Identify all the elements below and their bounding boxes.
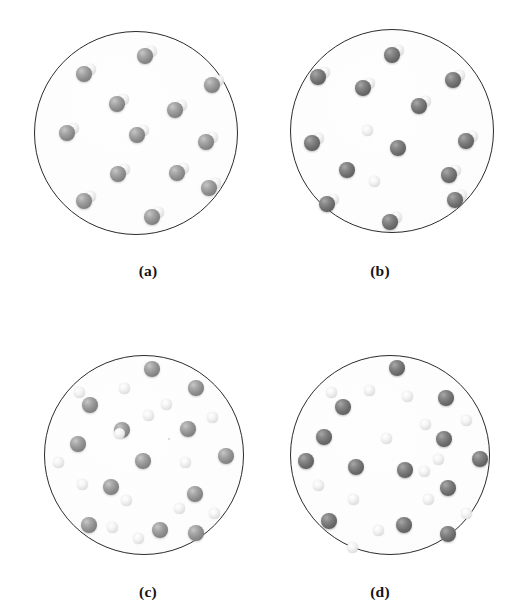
free-heavy-atom-c-3 [82,397,98,413]
panel-label-d: (d) [350,583,410,601]
panel-label-b: (b) [350,262,410,280]
heavy-atom [201,180,217,196]
heavy-atom [110,166,126,182]
free-heavy-atom-d-11 [321,513,337,529]
heavy-atom [167,102,183,118]
free-heavy-atom-d-4 [316,429,332,445]
heavy-atom [445,72,461,88]
free-heavy-atom-c-7 [218,448,234,464]
heavy-atom [169,165,185,181]
heavy-atom [198,134,214,150]
free-light-atom-d-13 [347,542,358,553]
panel-label-a: (a) [118,262,178,280]
vessel-circle-d [290,355,490,555]
free-heavy-atom-d-10 [440,480,456,496]
heavy-atom [204,77,220,93]
free-light-atom-c-12 [133,533,144,544]
free-light-atom-d-7 [433,454,444,465]
free-heavy-atom-d-7 [348,459,364,475]
free-light-atom-d-8 [313,480,324,491]
free-light-atom-b-1 [362,125,373,136]
free-heavy-atom-d-9 [472,451,488,467]
free-heavy-atom-d-8 [397,462,413,478]
free-heavy-atom-d-5 [436,431,452,447]
free-heavy-atom-c-8 [135,453,151,469]
free-heavy-atom-c-5 [180,421,196,437]
dust-speck [168,438,170,440]
free-light-atom-d-9 [348,494,359,505]
free-light-atom-c-2 [119,383,130,394]
free-heavy-atom-b-1 [390,140,406,156]
free-light-atom-c-8 [121,495,132,506]
free-light-atom-c-13 [53,457,64,468]
free-light-atom-d-10 [423,494,434,505]
heavy-atom [76,193,92,209]
heavy-atom [355,80,371,96]
heavy-atom [441,167,457,183]
free-heavy-atom-d-1 [389,360,405,376]
heavy-atom [447,192,463,208]
free-light-atom-c-4 [207,412,218,423]
free-heavy-atom-b-2 [339,162,355,178]
heavy-atom [310,69,326,85]
free-light-atom-d-4 [420,419,431,430]
free-light-atom-d-2 [364,385,375,396]
heavy-atom [144,209,160,225]
free-heavy-atom-c-1 [144,361,160,377]
free-light-atom-d-6 [381,433,392,444]
free-heavy-atom-c-2 [188,380,204,396]
free-light-atom-c-3 [143,410,154,421]
free-heavy-atom-d-6 [298,453,314,469]
heavy-atom [382,214,398,230]
heavy-atom [411,98,427,114]
free-light-atom-d-11 [461,508,472,519]
heavy-atom [137,48,153,64]
free-light-atom-c-1 [74,387,85,398]
heavy-atom [304,135,320,151]
free-heavy-atom-c-12 [152,522,168,538]
heavy-atom [59,125,75,141]
free-light-atom-c-10 [209,508,220,519]
free-heavy-atom-c-9 [103,479,119,495]
free-heavy-atom-d-3 [438,390,454,406]
free-heavy-atom-d-2 [335,399,351,415]
free-light-atom-b-2 [369,176,380,187]
panel-label-c: (c) [118,583,178,601]
free-light-atom-c-6 [180,457,191,468]
heavy-atom [458,133,474,149]
free-light-atom-d-12 [373,525,384,536]
heavy-atom [109,96,125,112]
free-light-atom-c-7 [77,479,88,490]
free-heavy-atom-c-11 [81,517,97,533]
free-heavy-atom-d-12 [396,517,412,533]
free-light-atom-c-9 [174,503,185,514]
heavy-atom [129,127,145,143]
free-light-atom-d-1 [326,387,337,398]
heavy-atom [319,196,335,212]
free-heavy-atom-c-10 [187,486,203,502]
free-light-atom-d-3 [402,391,413,402]
free-heavy-atom-d-13 [440,526,456,542]
heavy-atom [384,47,400,63]
free-light-atom-c-14 [161,399,172,410]
free-heavy-atom-c-13 [188,525,204,541]
free-light-atom-d-14 [419,466,430,477]
figure-canvas: (a)(b)(c)(d) [0,0,526,614]
free-light-atom-d-5 [461,415,472,426]
free-light-atom-c-11 [107,522,118,533]
free-light-atom-c-5 [114,428,125,439]
heavy-atom [76,66,92,82]
free-heavy-atom-c-6 [70,436,86,452]
